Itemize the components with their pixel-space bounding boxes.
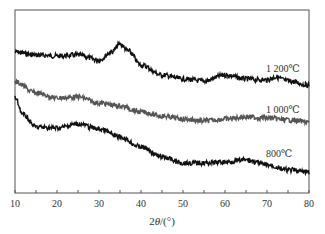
series-line-1200 [15, 43, 309, 88]
x-axis-label: 2θ/(°) [149, 215, 175, 228]
x-tick-label: 30 [94, 198, 104, 209]
x-tick-label: 60 [220, 198, 230, 209]
x-tick-label: 50 [178, 198, 188, 209]
x-tick-label: 40 [136, 198, 146, 209]
series-line-800 [15, 96, 309, 175]
series-label-800: 800℃ [266, 148, 292, 159]
x-tick-label: 70 [262, 198, 272, 209]
x-tick-label: 80 [304, 198, 314, 209]
series-lines [15, 43, 309, 175]
x-tick-label: 20 [52, 198, 62, 209]
series-label-1200: 1 200℃ [266, 63, 300, 74]
x-tick-label: 10 [10, 198, 20, 209]
series-label-1000: 1 000℃ [266, 104, 300, 115]
series-line-1000 [15, 80, 309, 124]
xrd-chart: 1020304050607080 1 200℃ 1 000℃ 800℃ 2θ/(… [0, 0, 325, 234]
